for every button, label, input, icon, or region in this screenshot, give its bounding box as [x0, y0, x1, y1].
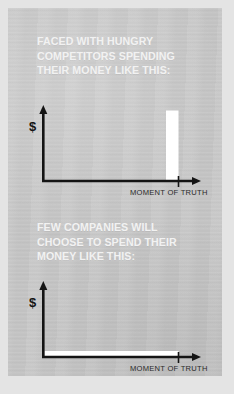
slide: Faced with hungry competitors spending t…: [0, 0, 234, 394]
competitor-spending-chart: $ Moment of truth: [8, 100, 222, 200]
x-axis-arrow-icon: [192, 177, 201, 185]
company-spending-chart: $ Moment of truth: [8, 276, 222, 376]
x-axis-arrow-icon: [192, 353, 201, 361]
x-axis-label: Moment of truth: [130, 364, 208, 373]
bar-competitor-spike: [166, 111, 179, 181]
caption-competitors: Faced with hungry competitors spending t…: [37, 34, 175, 78]
slide-panel: Faced with hungry competitors spending t…: [8, 8, 222, 376]
y-axis-label: $: [29, 295, 37, 310]
y-axis-label: $: [29, 119, 37, 134]
x-axis-label: Moment of truth: [130, 188, 208, 197]
y-axis-arrow-icon: [39, 105, 47, 114]
caption-few-companies: Few companies will choose to spend their…: [37, 220, 177, 264]
y-axis-arrow-icon: [39, 281, 47, 290]
